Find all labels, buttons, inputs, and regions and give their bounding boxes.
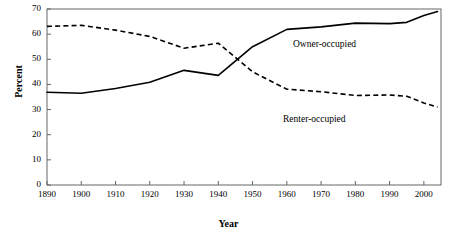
x-tick-label: 1960 [271,189,303,199]
plot-frame [47,9,441,185]
y-tick-label: 70 [13,3,41,13]
x-tick-label: 1910 [100,189,132,199]
plot-border [47,9,441,185]
x-axis-title: Year [0,218,457,229]
series-line-owner-occupied [47,12,438,94]
line-chart-plot [0,0,457,236]
series-annotation-owner-occupied: Owner-occupied [293,39,356,49]
series-line-renter-occupied [47,25,438,107]
y-tick-label: 20 [13,129,41,139]
x-tick-label: 1920 [134,189,166,199]
x-tick-label: 1890 [31,189,63,199]
y-axis-ticks [47,9,51,185]
y-tick-label: 0 [13,179,41,189]
y-tick-label: 60 [13,28,41,38]
x-tick-label: 1950 [237,189,269,199]
series-annotation-renter-occupied: Renter-occupied [283,114,346,124]
y-axis-title: Percent [13,42,24,122]
x-tick-label: 1990 [374,189,406,199]
x-tick-label: 1940 [202,189,234,199]
x-tick-label: 1930 [168,189,200,199]
x-tick-label: 1980 [339,189,371,199]
x-tick-label: 2000 [408,189,440,199]
x-tick-label: 1970 [305,189,337,199]
x-tick-label: 1900 [65,189,97,199]
y-tick-label: 10 [13,154,41,164]
chart-figure: 1890190019101920193019401950196019701980… [0,0,457,236]
x-axis-ticks [47,181,424,185]
